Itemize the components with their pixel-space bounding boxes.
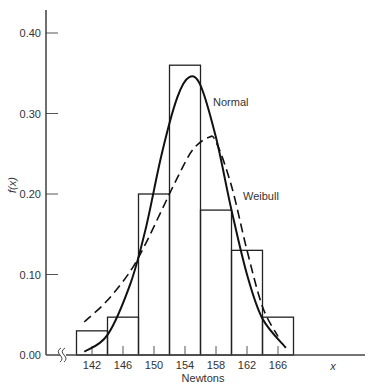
x-tick-label: 150 (145, 359, 163, 371)
y-tick-label: 0.00 (20, 349, 41, 361)
x-tick-label: 158 (207, 359, 225, 371)
y-tick-label: 0.10 (20, 269, 41, 281)
x-tick-label: 166 (269, 359, 287, 371)
weibull-curve-label: Weibull (243, 190, 279, 202)
y-tick-label: 0.40 (20, 27, 41, 39)
weibull-curve (84, 136, 278, 336)
x-tick-label: 154 (176, 359, 194, 371)
x-tick-label: 146 (114, 359, 132, 371)
x-tick-label: 162 (238, 359, 256, 371)
y-axis-title: f(x) (6, 177, 18, 193)
histogram-chart: 1421461501541581621660.000.100.200.300.4… (0, 0, 376, 389)
y-tick-label: 0.30 (20, 108, 41, 120)
x-axis-title: Newtons (182, 372, 225, 384)
normal-curve-label: Normal (213, 96, 248, 108)
y-tick-label: 0.20 (20, 188, 41, 200)
normal-curve (84, 76, 285, 352)
x-tick-label: 142 (83, 359, 101, 371)
histogram-bar (139, 194, 170, 355)
histogram-bar (232, 250, 263, 355)
x-axis-variable-label: x (329, 360, 336, 372)
histogram-bar (201, 210, 232, 355)
